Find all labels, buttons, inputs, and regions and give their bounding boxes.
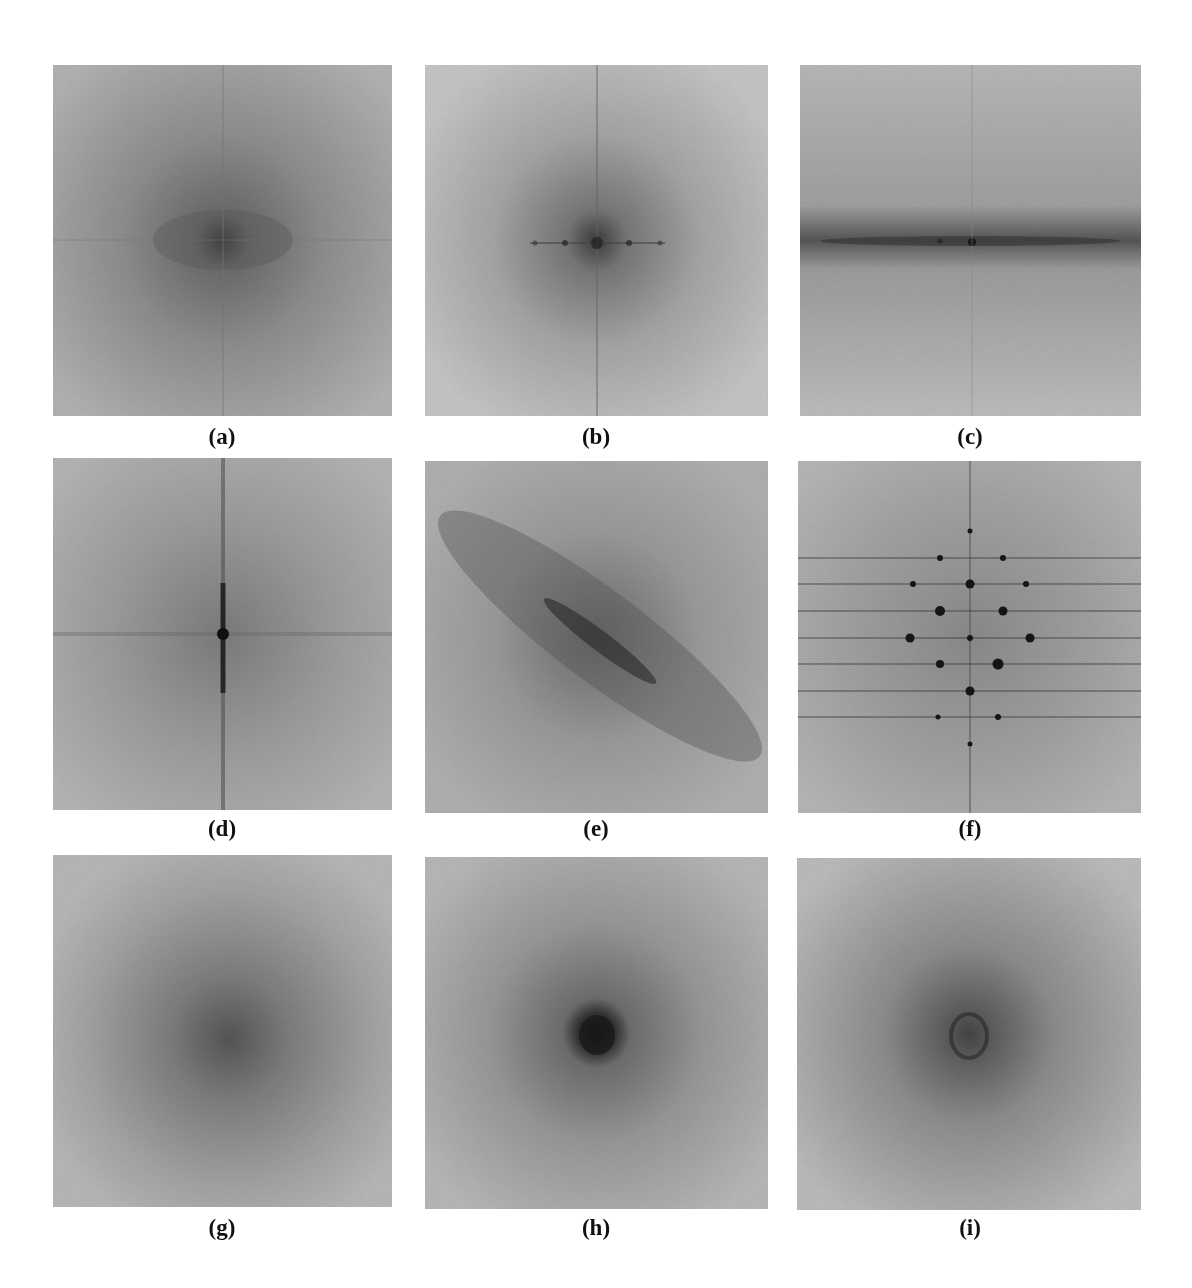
panel-f-caption: (f) [910,816,1030,842]
panel-a-caption: (a) [162,424,282,450]
panel-g-caption: (g) [162,1215,282,1241]
panel-b-image [425,65,768,416]
panel-e-image [425,461,768,813]
panel-h-image [425,857,768,1209]
panel-i-caption: (i) [910,1215,1030,1241]
panel-h-caption: (h) [536,1215,656,1241]
panel-d-image [53,458,392,810]
panel-d-caption: (d) [162,816,282,842]
panel-i-image [797,858,1141,1210]
panel-g-image [53,855,392,1207]
panel-c-caption: (c) [910,424,1030,450]
panel-b-caption: (b) [536,424,656,450]
spectrum-figure-grid: (a) (b) [0,0,1192,1288]
panel-e-caption: (e) [536,816,656,842]
panel-a-image [53,65,392,416]
panel-f-image [798,461,1141,813]
panel-c-image [800,65,1141,416]
